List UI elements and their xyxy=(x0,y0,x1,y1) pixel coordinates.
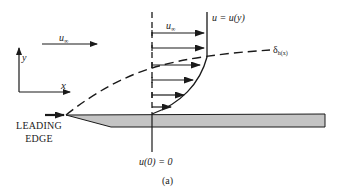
velocity-arrows xyxy=(152,30,204,107)
flat-plate xyxy=(66,114,325,127)
leading-edge-label: LEADING EDGE xyxy=(14,121,64,144)
leading-edge-label-line2: EDGE xyxy=(14,134,64,144)
boundary-layer-thickness-label: δh(x) xyxy=(273,45,288,56)
boundary-layer-diagram: u∞ y x u∞ u = u(y) δh(x) LEADING EDGE u(… xyxy=(0,0,341,196)
x-axis-label: x xyxy=(61,80,66,91)
y-axis-label: y xyxy=(22,53,26,63)
wall-no-slip-condition: u(0) = 0 xyxy=(139,157,172,167)
leading-edge-label-line1: LEADING xyxy=(14,121,64,131)
boundary-layer-edge-curve xyxy=(66,50,270,115)
free-stream-label: u∞ xyxy=(59,33,68,44)
free-stream-subscript: ∞ xyxy=(64,38,68,44)
profile-arrow-subscript: ∞ xyxy=(171,26,175,32)
figure-caption: (a) xyxy=(162,176,173,186)
profile-free-stream-label: u∞ xyxy=(166,21,175,32)
velocity-profile-label: u = u(y) xyxy=(212,13,245,23)
velocity-profile-curve xyxy=(152,12,207,114)
delta-subscript: h(x) xyxy=(278,50,288,56)
